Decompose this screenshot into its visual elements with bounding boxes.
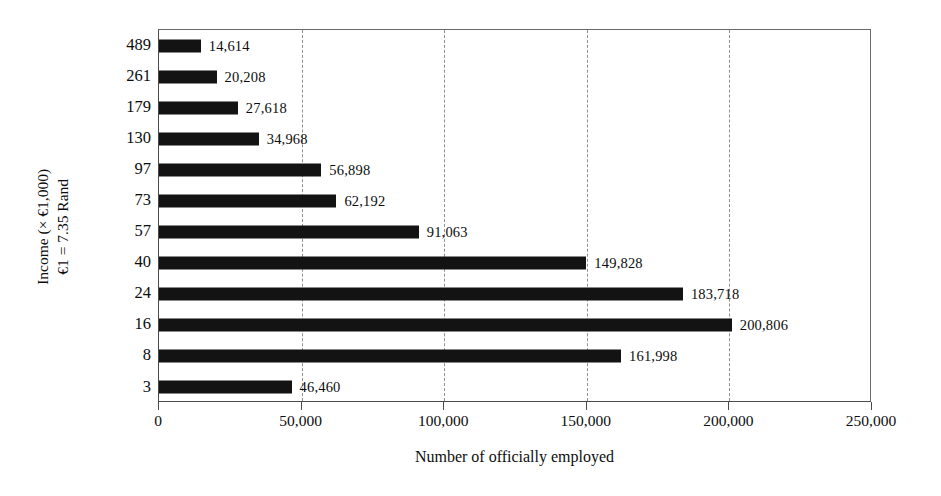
bar-value-label: 14,614 <box>209 38 250 53</box>
bar-value-label: 91,063 <box>427 225 468 240</box>
y-tick-label: 261 <box>71 67 151 84</box>
bar[interactable] <box>159 350 621 363</box>
bar-row: 46,460 <box>159 372 870 403</box>
x-axis-title: Number of officially employed <box>158 449 871 465</box>
bar[interactable] <box>159 163 321 176</box>
y-tick-label: 16 <box>71 316 151 333</box>
bar[interactable] <box>159 101 238 114</box>
bar-value-label: 34,968 <box>267 132 308 147</box>
bar-chart-figure: Income (× €1,000) €1 = 7.35 Rand 489 261… <box>0 0 941 496</box>
bar[interactable] <box>159 132 259 145</box>
bar-value-label: 46,460 <box>300 380 341 395</box>
x-tick-label: 250,000 <box>846 413 896 429</box>
x-tick-label: 50,000 <box>279 413 322 429</box>
x-axis-tick-labels: 0 50,000 100,000 150,000 200,000 250,000 <box>158 402 871 442</box>
bar-row: 149,828 <box>159 248 870 279</box>
x-tick-mark <box>443 402 444 410</box>
x-tick-mark <box>158 402 159 410</box>
x-tick-label: 200,000 <box>703 413 753 429</box>
bar-value-label: 62,192 <box>344 194 385 209</box>
y-tick-label: 97 <box>71 161 151 178</box>
y-tick-label: 3 <box>71 378 151 395</box>
bar[interactable] <box>159 319 732 332</box>
bar-row: 183,718 <box>159 279 870 310</box>
bar-row: 200,806 <box>159 310 870 341</box>
x-tick-mark <box>728 402 729 410</box>
bar-value-label: 161,998 <box>629 349 678 364</box>
bar-row: 27,618 <box>159 92 870 123</box>
bar-row: 161,998 <box>159 341 870 372</box>
y-tick-label: 73 <box>71 192 151 209</box>
bar[interactable] <box>159 381 292 394</box>
bar-value-label: 149,828 <box>594 256 643 271</box>
y-axis-title-line-1: Income (× €1,000) <box>33 57 53 397</box>
y-tick-label: 179 <box>71 98 151 115</box>
y-tick-label: 40 <box>71 254 151 271</box>
bar[interactable] <box>159 257 586 270</box>
y-tick-label: 489 <box>71 36 151 53</box>
y-tick-label: 8 <box>71 347 151 364</box>
bar[interactable] <box>159 226 419 239</box>
bar[interactable] <box>159 39 201 52</box>
x-tick-label: 150,000 <box>561 413 611 429</box>
bar-value-label: 56,898 <box>329 163 370 178</box>
y-tick-label: 24 <box>71 285 151 302</box>
bar-row: 56,898 <box>159 154 870 185</box>
bar[interactable] <box>159 288 683 301</box>
bar-row: 14,614 <box>159 30 870 61</box>
bar[interactable] <box>159 70 217 83</box>
bar-row: 34,968 <box>159 123 870 154</box>
bar[interactable] <box>159 194 336 207</box>
bar-row: 62,192 <box>159 185 870 216</box>
plot-area: 14,614 20,208 27,618 34,968 56,898 62,19… <box>158 29 871 402</box>
x-tick-mark <box>301 402 302 410</box>
x-tick-label: 100,000 <box>418 413 468 429</box>
x-tick-mark <box>871 402 872 410</box>
bar-value-label: 20,208 <box>225 69 266 84</box>
bar-value-label: 183,718 <box>691 287 740 302</box>
bar-row: 20,208 <box>159 61 870 92</box>
bar-row: 91,063 <box>159 217 870 248</box>
y-axis-tick-labels: 489 261 179 130 97 73 57 40 24 16 8 3 <box>67 29 151 402</box>
y-tick-label: 57 <box>71 223 151 240</box>
bar-value-label: 200,806 <box>740 318 789 333</box>
y-tick-label: 130 <box>71 130 151 147</box>
bar-value-label: 27,618 <box>246 100 287 115</box>
x-tick-mark <box>586 402 587 410</box>
x-tick-label: 0 <box>154 413 162 429</box>
